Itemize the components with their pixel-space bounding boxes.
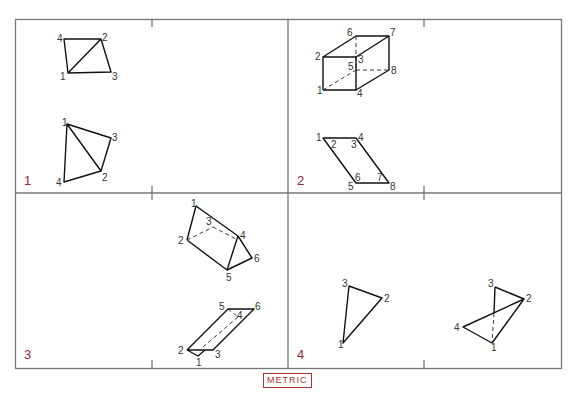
vertex-label: 3 bbox=[215, 349, 221, 360]
panel-2: 6 7 2 3 5 8 1 4 1 2 3 4 5 6 7 8 2 bbox=[297, 27, 397, 192]
vertex-label: 4 bbox=[454, 322, 460, 333]
panel-3-top-view: 1 2 3 4 5 6 bbox=[178, 198, 260, 283]
panel-number: 1 bbox=[24, 173, 31, 188]
vertex-label: 6 bbox=[255, 301, 261, 312]
vertex-label: 4 bbox=[56, 177, 62, 188]
vertex-label: 2 bbox=[102, 32, 108, 43]
vertex-label: 4 bbox=[237, 310, 243, 321]
vertex-label: 2 bbox=[178, 235, 184, 246]
vertex-label: 6 bbox=[347, 27, 353, 38]
vertex-label: 1 bbox=[62, 117, 68, 128]
vertex-label: 3 bbox=[488, 278, 494, 289]
vertex-label: 7 bbox=[377, 172, 383, 183]
vertex-label: 7 bbox=[390, 27, 396, 38]
panel-2-isometric-view: 6 7 2 3 5 8 1 4 bbox=[315, 27, 397, 99]
vertex-label: 3 bbox=[342, 278, 348, 289]
vertex-label: 4 bbox=[57, 33, 63, 44]
panel-1-top-view: 4 2 1 3 bbox=[57, 32, 118, 82]
vertex-label: 3 bbox=[112, 71, 118, 82]
panel-3: 1 2 3 4 5 6 5 6 4 2 3 1 3 bbox=[24, 198, 261, 368]
vertex-label: 5 bbox=[219, 301, 225, 312]
metric-badge: METRIC bbox=[263, 373, 312, 388]
vertex-label: 2 bbox=[331, 139, 337, 150]
vertex-label: 1 bbox=[196, 357, 202, 368]
panel-4: 3 2 1 3 2 4 1 4 bbox=[297, 278, 532, 362]
vertex-label: 3 bbox=[206, 216, 212, 227]
vertex-label: 2 bbox=[315, 51, 321, 62]
vertex-label: 1 bbox=[317, 85, 323, 96]
vertex-label: 6 bbox=[254, 253, 260, 264]
vertex-label: 2 bbox=[102, 172, 108, 183]
panel-number: 2 bbox=[297, 173, 304, 188]
vertex-label: 4 bbox=[357, 88, 363, 99]
vertex-label: 2 bbox=[384, 293, 390, 304]
vertex-label: 5 bbox=[348, 61, 354, 72]
vertex-label: 6 bbox=[355, 172, 361, 183]
projection-exercise-sheet: 4 2 1 3 1 3 2 4 1 6 7 2 3 5 8 1 bbox=[0, 0, 578, 404]
panel-1: 4 2 1 3 1 3 2 4 1 bbox=[24, 32, 118, 188]
vertex-label: 1 bbox=[338, 339, 344, 350]
panel-number: 3 bbox=[24, 347, 31, 362]
vertex-label: 1 bbox=[60, 71, 66, 82]
panel-1-front-view: 1 3 2 4 bbox=[56, 117, 118, 188]
vertex-label: 3 bbox=[358, 54, 364, 65]
vertex-label: 1 bbox=[491, 342, 497, 353]
vertex-label: 5 bbox=[226, 272, 232, 283]
vertex-label: 1 bbox=[316, 132, 322, 143]
panel-4-view-a: 3 2 1 bbox=[338, 278, 390, 350]
vertex-label: 2 bbox=[526, 293, 532, 304]
vertex-label: 3 bbox=[112, 132, 118, 143]
vertex-label: 4 bbox=[240, 230, 246, 241]
vertex-label: 2 bbox=[178, 345, 184, 356]
panel-2-oblique-view: 1 2 3 4 5 6 7 8 bbox=[316, 132, 396, 192]
vertex-label: 4 bbox=[358, 132, 364, 143]
panel-number: 4 bbox=[297, 347, 304, 362]
vertex-label: 3 bbox=[351, 139, 357, 150]
vertex-label: 8 bbox=[390, 181, 396, 192]
vertex-label: 5 bbox=[348, 181, 354, 192]
vertex-label: 8 bbox=[391, 65, 397, 76]
vertex-label: 1 bbox=[191, 198, 197, 209]
panel-3-front-view: 5 6 4 2 3 1 bbox=[178, 301, 261, 368]
panel-4-view-b: 3 2 4 1 bbox=[454, 278, 532, 353]
